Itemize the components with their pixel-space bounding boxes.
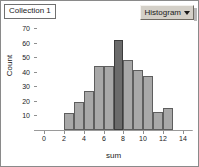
y-axis-title: Count [5,41,14,91]
y-tick [34,43,37,44]
bars-layer [34,21,193,130]
x-tick-label: 10 [133,135,153,143]
x-tick [183,131,184,134]
x-tick [64,131,65,134]
x-axis-title: sum [34,151,193,160]
x-tick-label: 2 [54,135,74,143]
x-tick-label: 12 [153,135,173,143]
histogram-bar[interactable] [74,102,84,130]
y-tick [34,57,37,58]
histogram-bar[interactable] [163,108,173,130]
y-tick [34,101,37,102]
dropdown-shadow [194,8,197,21]
histogram-bar[interactable] [94,66,104,130]
x-axis-line [34,130,193,131]
plot-type-dropdown[interactable]: Histogram [140,5,194,20]
x-tick [84,131,85,134]
histogram-bar[interactable] [64,113,74,130]
collection-title-label: Collection 1 [9,6,51,15]
x-tick-label: 14 [173,135,193,143]
chevron-down-icon [184,11,190,15]
x-tick [163,131,164,134]
histogram-bar[interactable] [133,70,143,130]
y-tick [34,28,37,29]
x-tick-label: 0 [34,135,54,143]
y-tick [34,115,37,116]
collection-title-box[interactable]: Collection 1 [4,4,56,19]
y-tick-label: 10 [1,112,30,119]
y-tick-label: 70 [1,25,30,32]
y-tick-label: 20 [1,98,30,105]
x-tick [123,131,124,134]
x-tick [104,131,105,134]
y-tick [34,86,37,87]
x-tick [143,131,144,134]
plot-area [34,21,193,130]
x-tick-label: 8 [113,135,133,143]
x-tick-label: 4 [74,135,94,143]
histogram-window: Collection 1 Histogram 10203040506070 02… [0,0,199,167]
x-tick [44,131,45,134]
histogram-bar[interactable] [114,40,124,130]
histogram-bar[interactable] [153,112,163,130]
x-tick-label: 6 [94,135,114,143]
histogram-bar[interactable] [143,76,153,131]
plot-type-label: Histogram [145,8,181,17]
y-tick [34,72,37,73]
histogram-bar[interactable] [84,91,94,130]
histogram-bar[interactable] [104,66,114,130]
histogram-bar[interactable] [123,60,133,130]
